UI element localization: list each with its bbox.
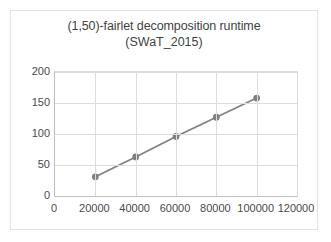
y-axis-tick-label: 0 xyxy=(14,189,50,201)
plot-area xyxy=(54,71,298,197)
y-axis-tick-label: 100 xyxy=(14,127,50,139)
y-axis-tick-label: 200 xyxy=(14,65,50,77)
x-axis-tick-labels: 020000400006000080000100000120000 xyxy=(54,202,298,220)
x-axis-tick-label: 20000 xyxy=(79,202,110,214)
chart-title-main: (1,50)-fairlet decomposition runtime xyxy=(11,19,317,35)
y-axis-tick-labels: 050100150200 xyxy=(11,71,50,197)
x-axis-tick-label: 100000 xyxy=(237,202,274,214)
chart-container: (1,50)-fairlet decomposition runtime (SW… xyxy=(10,10,318,230)
y-axis-tick-label: 50 xyxy=(14,158,50,170)
x-axis-tick-label: 80000 xyxy=(200,202,231,214)
x-axis-tick-label: 60000 xyxy=(160,202,191,214)
chart-title-subtitle: (SWaT_2015) xyxy=(11,35,317,51)
gridline-vertical xyxy=(216,72,217,196)
gridline-vertical xyxy=(257,72,258,196)
x-axis-tick-label: 0 xyxy=(51,202,57,214)
x-axis-tick-label: 120000 xyxy=(278,202,315,214)
gridline-vertical xyxy=(176,72,177,196)
gridline-vertical xyxy=(95,72,96,196)
chart-title: (1,50)-fairlet decomposition runtime (SW… xyxy=(11,19,317,50)
gridline-vertical xyxy=(136,72,137,196)
x-axis-tick-label: 40000 xyxy=(119,202,150,214)
y-axis-tick-label: 150 xyxy=(14,96,50,108)
